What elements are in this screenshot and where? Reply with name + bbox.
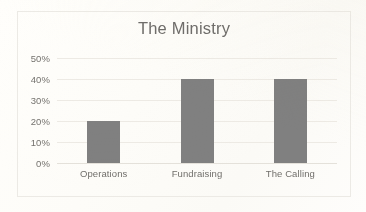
bar xyxy=(87,121,120,163)
bar xyxy=(274,79,307,163)
x-axis-category-labels: OperationsFundraisingThe Calling xyxy=(57,168,337,184)
bar xyxy=(181,79,214,163)
gridline xyxy=(57,163,337,164)
x-axis-category-label: Operations xyxy=(80,168,127,179)
y-axis-tick-label: 10% xyxy=(31,137,50,148)
plot-area: 0%10%20%30%40%50% xyxy=(57,58,337,163)
x-axis-category-label: Fundraising xyxy=(172,168,223,179)
y-axis-tick-label: 20% xyxy=(31,116,50,127)
chart-title: The Ministry xyxy=(17,19,351,38)
y-axis-tick-label: 40% xyxy=(31,74,50,85)
y-axis-tick-label: 0% xyxy=(36,158,50,169)
bar-series xyxy=(57,58,337,163)
x-axis-category-label: The Calling xyxy=(266,168,315,179)
y-axis-tick-label: 50% xyxy=(31,53,50,64)
y-axis-tick-label: 30% xyxy=(31,95,50,106)
